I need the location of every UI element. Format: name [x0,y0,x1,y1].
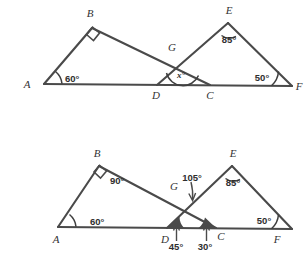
top-vertex-label-E: E [225,4,233,16]
top-vertex-label-G: G [168,41,176,53]
bottom-angle-arc-A [70,215,77,227]
top-angle-label-A: 60° [65,73,80,84]
bottom-angle-arc-F [272,215,279,229]
bottom-vertex-label-G: G [170,180,178,192]
top-baseline-AF [44,84,292,86]
top-vertex-label-F: F [295,80,303,92]
bottom-angle-label-D: 45° [169,241,184,252]
bottom-angle-label-A: 60° [90,216,105,227]
bottom-vertex-label-D: D [160,233,169,245]
top-vertex-label-B: B [87,7,94,19]
bottom-diagram: A B D C E F G 60° 90° 85° 50° 105° 45° 3… [52,147,292,252]
bottom-angle-label-E: 85° [226,177,241,188]
top-vertex-label-A: A [23,78,31,90]
bottom-angle-label-B: 90° [110,175,125,186]
bottom-vertex-label-E: E [229,147,237,159]
geometry-diagram-svg: A B D C E F G 60° 85° 50° x° [0,0,307,270]
top-vertex-label-D: D [151,89,160,101]
top-vertex-label-C: C [206,89,214,101]
top-angle-arc-A [56,72,63,84]
bottom-angle-label-C: 30° [198,241,213,252]
top-diagram: A B D C E F G 60° 85° 50° x° [23,4,303,101]
bottom-angle-label-G: 105° [182,172,202,183]
top-angle-label-E: 85° [222,34,237,45]
bottom-vertex-label-B: B [94,147,101,159]
bottom-vertex-label-F: F [273,233,281,245]
bottom-vertex-label-A: A [52,233,60,245]
top-segment-BC [92,28,210,85]
geometry-figure-root: A B D C E F G 60° 85° 50° x° [0,0,307,270]
bottom-arrow-to-G [191,182,193,199]
top-angle-label-F: 50° [255,72,270,83]
bottom-angle-label-F: 50° [257,215,272,226]
top-angle-arc-F [272,72,279,86]
bottom-vertex-label-C: C [217,230,225,242]
top-angle-label-G-unknown: x° [176,70,186,80]
